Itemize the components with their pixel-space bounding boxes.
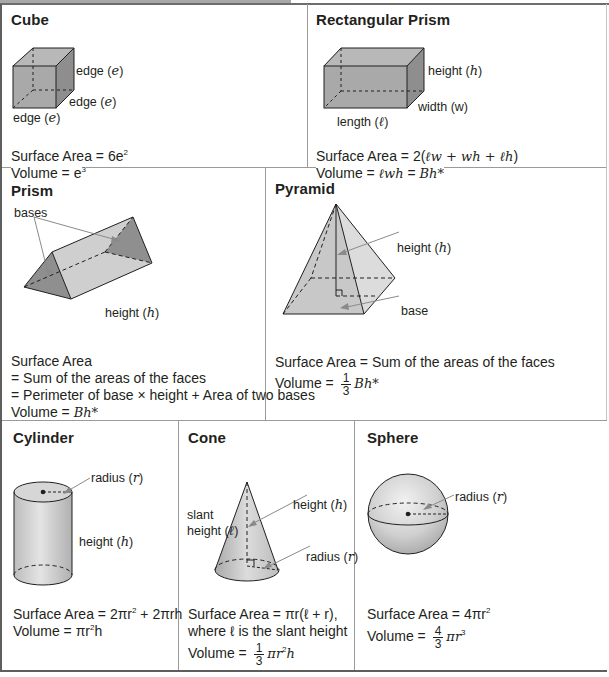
rectangular-prism-surface-area: Surface Area = 2(ℓw + wh + ℓh) <box>316 148 518 165</box>
pyramid-diagram <box>281 202 401 317</box>
cone-cell: Cone slant height <box>179 421 354 671</box>
pyramid-surface-area: Surface Area = Sum of the areas of the f… <box>275 354 555 371</box>
prism-cell: Prism bases height (h) Surface Area = Su… <box>2 168 265 420</box>
sphere-diagram <box>367 473 457 563</box>
rectangular-prism-width-label: width (w) <box>418 100 468 114</box>
cone-volume: Volume = 13πr2h <box>188 642 347 667</box>
rectangular-prism-title: Rectangular Prism <box>316 11 450 28</box>
rectangular-prism-formulas: Surface Area = 2(ℓw + wh + ℓh) <box>316 148 518 165</box>
sphere-surface-area: Surface Area = 4πr2 <box>367 606 490 623</box>
cone-slant-label: slant height (ℓ) <box>187 507 238 539</box>
prism-height-label: height (h) <box>105 305 159 320</box>
cone-formulas: Surface Area = πr(ℓ + r), where ℓ is the… <box>188 606 347 667</box>
cube-formulas: Surface Area = 6e2 <box>11 148 128 165</box>
fraction-four-thirds: 43 <box>433 625 444 650</box>
rectangular-prism-volume: Volume = ℓwh = Bh* <box>316 165 444 182</box>
rectangular-prism-cell: Rectangular Prism height (h) width (w) l… <box>308 4 607 167</box>
cube-surface-area: Surface Area = 6e2 <box>11 148 128 165</box>
cylinder-cell: Cylinder <box>2 421 178 671</box>
rectangular-prism-length-label: length (ℓ) <box>337 114 388 130</box>
cone-height-label: height (h) <box>293 497 347 512</box>
rectangular-prism-diagram <box>323 44 433 114</box>
prism-title: Prism <box>11 182 53 199</box>
sphere-volume: Volume = 43πr3 <box>367 625 490 650</box>
cylinder-radius-label: radius (r) <box>91 470 143 485</box>
pyramid-cell: Pyramid height (h) base Surface Area = S… <box>266 168 607 420</box>
rectangular-prism-height-label: height (h) <box>428 63 482 78</box>
cone-surface-area: Surface Area = πr(ℓ + r), <box>188 606 347 623</box>
formula-sheet: Cube edge (e) edge (e) edge (e) Surface … <box>0 4 607 672</box>
sphere-cell: Sphere radius (r) Surface Area = 4πr2 Vo… <box>355 421 607 671</box>
fraction-one-third: 13 <box>254 642 265 667</box>
cube-edge-label-middle: edge (e) <box>69 94 116 109</box>
sphere-title: Sphere <box>367 429 418 446</box>
cube-edge-label-right: edge (e) <box>76 63 123 78</box>
sphere-radius-label: radius (r) <box>455 489 507 504</box>
cylinder-volume: Volume = πr2h <box>13 623 182 640</box>
cube-cell: Cube edge (e) edge (e) edge (e) Surface … <box>2 4 307 167</box>
fraction-one-third: 13 <box>341 372 352 397</box>
cube-title: Cube <box>11 11 49 28</box>
cube-volume: Volume = e3 <box>11 165 86 182</box>
prism-diagram <box>22 215 172 305</box>
pyramid-height-label: height (h) <box>397 240 451 255</box>
cube-edge-label-bottom: edge (e) <box>13 110 60 125</box>
cone-slant-note: where ℓ is the slant height <box>188 623 347 640</box>
pyramid-title: Pyramid <box>275 180 335 197</box>
pyramid-base-label: base <box>401 304 428 318</box>
cone-title: Cone <box>188 429 226 446</box>
pyramid-volume: Volume = 13Bh* <box>275 372 379 397</box>
cone-radius-label: radius (r) <box>306 549 358 564</box>
cylinder-surface-area: Surface Area = 2πr2 + 2πrh <box>13 606 182 623</box>
cylinder-height-label: height (h) <box>79 534 133 549</box>
sphere-formulas: Surface Area = 4πr2 Volume = 43πr3 <box>367 606 490 650</box>
cylinder-formulas: Surface Area = 2πr2 + 2πrh Volume = πr2h <box>13 606 182 640</box>
